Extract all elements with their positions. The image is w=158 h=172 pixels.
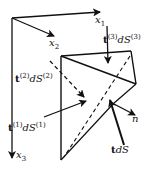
diagram-graphics [0,0,158,172]
t3-dS3-label: t(3)dS(3) [103,34,141,45]
x3-axis-label: x3 [16,150,26,163]
t3-index: (3) [108,33,118,41]
dS-area: dS [116,144,129,155]
x2-axis-label: x2 [49,38,59,51]
t2-index: (2) [20,72,30,80]
coordinate-axes [12,12,100,158]
normal-n-label: n [132,114,138,124]
dS3-area: dS [118,34,131,45]
cauchy-tetrahedron-diagram: x1 x2 x3 t(3)dS(3) t(2)dS(2) t(1)dS(1) n… [0,0,158,172]
edge-right [131,51,136,84]
dS1-index: (1) [36,121,46,129]
t2-dS2-label: t(2)dS(2) [15,73,53,84]
dS2-area: dS [30,73,43,84]
t2-arrow-dashed [50,61,84,97]
t1-dS1-label: t(1)dS(1) [8,122,46,133]
t1-index: (1) [13,121,23,129]
dS2-index: (2) [43,72,53,80]
t-dS-label: tdS [111,145,129,155]
x1-subscript: 1 [101,20,105,28]
t1-arrow [44,101,86,117]
dS1-area: dS [23,122,36,133]
dS3-index: (3) [131,33,141,41]
n-symbol: n [132,113,138,124]
x1-axis-arrow [12,12,100,18]
edge-top [61,51,131,56]
t-arrow [110,100,124,145]
x3-subscript: 3 [22,155,26,163]
x2-subscript: 2 [55,43,59,51]
x1-axis-label: x1 [95,15,105,28]
x2-axis-arrow [12,18,54,36]
edge-diagonal [61,56,136,84]
